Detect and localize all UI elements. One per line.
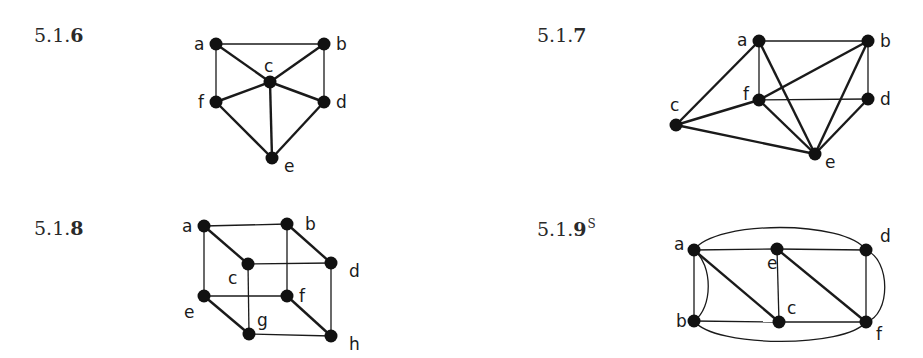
edge-c-d: [248, 263, 331, 264]
edge-g-h: [249, 334, 331, 336]
vertex-label-e: e: [284, 156, 294, 176]
edge-a-b: [204, 224, 287, 226]
edge-f-e: [216, 102, 272, 158]
edge-b-c: [270, 44, 324, 82]
vertex-label-c: c: [228, 268, 237, 288]
vertex-label-a: a: [182, 216, 192, 236]
edge-a-c: [216, 44, 270, 82]
graph-5-1-7: abcdef: [670, 30, 891, 172]
vertex-d: [862, 93, 875, 106]
graph-5-1-8: abcdefgh: [182, 214, 360, 354]
vertex-f: [860, 316, 873, 329]
vertex-label-f: f: [299, 286, 306, 306]
vertex-label-a: a: [194, 34, 204, 54]
vertex-a: [210, 38, 223, 51]
edge-c-e: [270, 82, 272, 158]
vertex-label-b: b: [676, 311, 687, 331]
curved-edge-d-f: [866, 250, 885, 322]
edge-a-c: [204, 226, 248, 264]
vertex-label-b: b: [336, 34, 347, 54]
vertex-label-h: h: [349, 334, 360, 354]
edge-f-e: [759, 100, 815, 154]
edge-a-e: [694, 249, 777, 250]
vertex-label-f: f: [743, 84, 750, 104]
vertex-label-d: d: [349, 261, 360, 281]
graph-canvas: abcdef abcdef abcdefgh abcdef: [0, 0, 923, 358]
vertex-a: [198, 220, 211, 233]
vertex-b: [688, 315, 701, 328]
vertex-b: [862, 35, 875, 48]
vertex-label-c: c: [670, 95, 679, 115]
vertex-f: [753, 94, 766, 107]
edge-b-c: [694, 321, 779, 322]
edge-f-h: [287, 296, 331, 336]
edge-f-d: [759, 99, 868, 100]
vertex-a: [753, 35, 766, 48]
edge-e-d: [777, 249, 866, 250]
vertex-label-e: e: [767, 253, 777, 273]
vertex-f: [210, 96, 223, 109]
vertex-label-d: d: [880, 89, 891, 109]
vertex-g: [243, 328, 256, 341]
edge-d-e: [815, 99, 868, 154]
vertex-c: [670, 119, 683, 132]
edge-d-e: [272, 102, 324, 158]
vertex-b: [281, 218, 294, 231]
edge-e-g: [204, 296, 249, 334]
vertex-label-e: e: [184, 302, 194, 322]
vertex-label-b: b: [880, 31, 891, 51]
edge-c-d: [270, 82, 324, 102]
vertex-a: [688, 244, 701, 257]
vertex-label-b: b: [305, 214, 316, 234]
vertex-e: [266, 152, 279, 165]
edge-b-f: [759, 41, 868, 100]
edge-c-g: [248, 264, 249, 334]
vertex-b: [318, 38, 331, 51]
vertex-c: [242, 258, 255, 271]
vertex-d: [860, 244, 873, 257]
vertex-label-a: a: [674, 234, 684, 254]
edge-a-e: [759, 41, 815, 154]
graph-5-1-9s: abcdef: [674, 226, 891, 344]
vertex-label-c: c: [787, 298, 796, 318]
edge-c-e: [676, 125, 815, 154]
edge-c-f: [216, 82, 270, 102]
vertex-label-f: f: [876, 324, 883, 344]
vertex-d: [325, 257, 338, 270]
vertex-label-g: g: [257, 310, 268, 330]
vertex-d: [318, 96, 331, 109]
graph-5-1-6: abcdef: [194, 34, 347, 176]
vertex-label-c: c: [264, 56, 273, 76]
vertex-label-e: e: [825, 152, 835, 172]
vertex-h: [325, 330, 338, 343]
edge-b-e: [815, 41, 868, 154]
vertex-label-a: a: [737, 30, 747, 50]
vertex-c: [264, 76, 277, 89]
vertex-e: [809, 148, 822, 161]
vertex-label-d: d: [880, 226, 891, 246]
vertex-c: [773, 316, 786, 329]
vertex-label-d: d: [336, 92, 347, 112]
vertex-label-f: f: [198, 92, 205, 112]
vertex-f: [281, 290, 294, 303]
vertex-e: [198, 290, 211, 303]
